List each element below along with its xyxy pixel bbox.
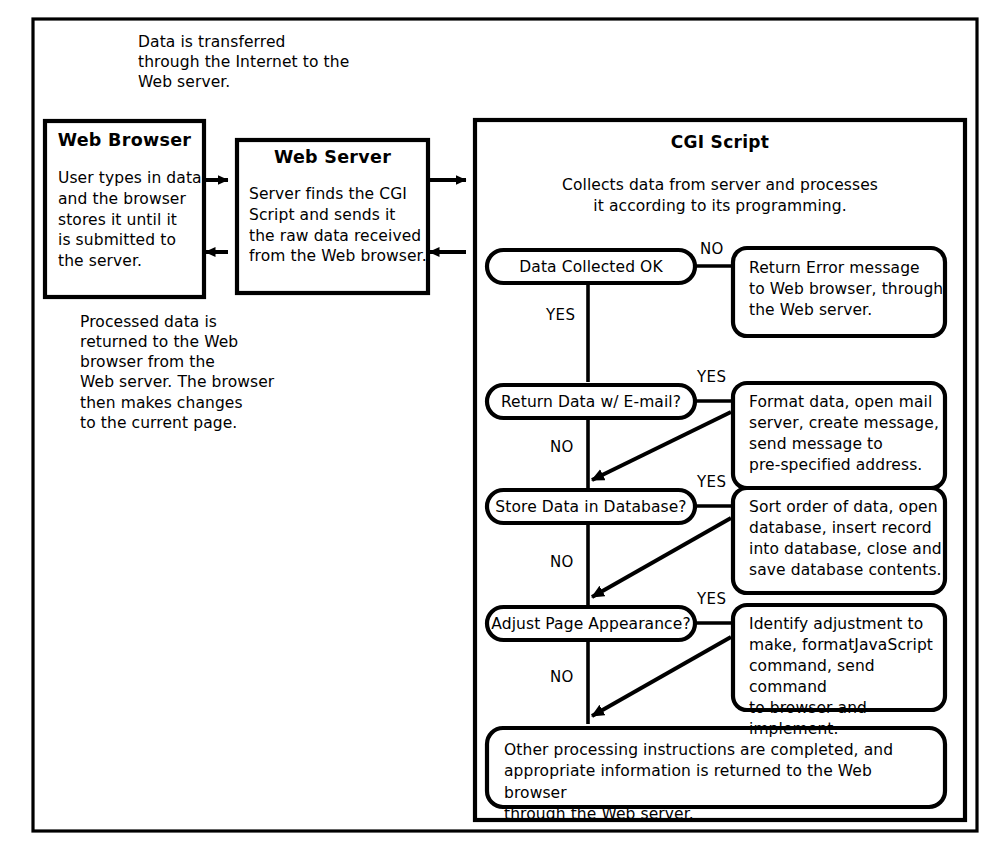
cgi-script-title: CGI Script <box>475 131 965 153</box>
action-body-return-error: Return Error message to Web browser, thr… <box>749 258 945 321</box>
web-browser-body: User types in data and the browser store… <box>58 168 208 272</box>
web-browser-title: Web Browser <box>45 129 204 152</box>
branch-label-3-down: NO <box>550 553 574 573</box>
decision-label-return-email: Return Data w/ E-mail? <box>487 392 695 412</box>
bottom-note: Processed data is returned to the Web br… <box>80 312 310 433</box>
branch-label-4-down: NO <box>550 668 574 688</box>
branch-label-2-down: NO <box>550 438 574 458</box>
branch-label-1-down: YES <box>546 306 575 326</box>
web-server-title: Web Server <box>237 146 428 169</box>
action-body-adjust: Identify adjustment to make, formatJavaS… <box>749 614 945 740</box>
final-outcome-text: Other processing instructions are comple… <box>504 740 934 826</box>
top-note: Data is transferred through the Internet… <box>138 32 438 92</box>
diagram-canvas: Data is transferred through the Internet… <box>0 0 981 853</box>
action-body-format-mail: Format data, open mail server, create me… <box>749 392 945 476</box>
decision-label-data-collected: Data Collected OK <box>487 257 695 277</box>
branch-label-4-side: YES <box>697 590 726 610</box>
branch-label-3-side: YES <box>697 473 726 493</box>
branch-label-1-side: NO <box>700 240 724 260</box>
branch-label-2-side: YES <box>697 368 726 388</box>
action-body-database: Sort order of data, open database, inser… <box>749 497 945 581</box>
cgi-script-subtitle: Collects data from server and processes … <box>495 175 945 217</box>
web-server-body: Server finds the CGI Script and sends it… <box>249 184 429 267</box>
decision-label-adjust-page: Adjust Page Appearance? <box>487 614 695 634</box>
decision-label-store-database: Store Data in Database? <box>487 497 695 517</box>
